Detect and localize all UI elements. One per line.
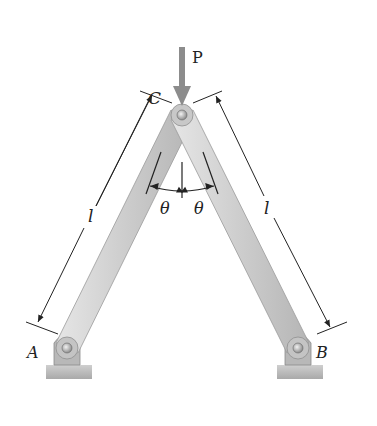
pin-b-icon xyxy=(293,343,303,353)
bar-bc xyxy=(171,104,309,359)
label-p: P xyxy=(192,48,203,67)
label-theta-left: θ xyxy=(160,199,170,218)
label-b: B xyxy=(315,343,328,362)
label-theta-right: θ xyxy=(194,199,204,218)
label-a: A xyxy=(25,343,39,362)
bar-ac xyxy=(56,110,193,359)
pin-a-icon xyxy=(62,343,72,353)
truss-diagram: P C A B l l θ θ xyxy=(0,0,377,426)
label-length-right: l xyxy=(264,198,269,218)
pin-c-icon xyxy=(177,110,187,120)
label-length-left: l xyxy=(88,206,93,226)
load-arrow-icon xyxy=(173,47,191,106)
